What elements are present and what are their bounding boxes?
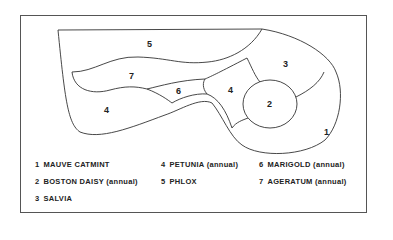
legend-num: 2 [35,177,39,186]
boundary-3-4 [247,58,260,82]
legend-item-3: 3SALVIA [35,194,72,203]
legend-num: 3 [35,194,39,203]
bed-label-7: 7 [129,71,134,81]
legend-name: SALVIA [43,194,72,203]
bed-label-2: 2 [267,99,272,109]
legend-item-5: 5PHLOX [161,177,197,186]
legend-num: 5 [161,177,165,186]
legend-item-2: 2BOSTON DAISY (annual) [35,177,138,186]
legend-num: 4 [161,160,165,169]
boundary-1-4 [232,118,248,128]
legend-name: PHLOX [169,177,196,186]
bed-label-1: 1 [324,127,329,137]
legend-item-4: 4PETUNIA (annual) [161,160,238,169]
boundary-5-7 [72,29,262,72]
legend-num: 6 [259,160,263,169]
bed-label-5: 5 [147,39,152,49]
bed-label-4-right: 4 [228,85,233,95]
bed-label-6: 6 [176,86,181,96]
legend-item-6: 6MARIGOLD (annual) [259,160,345,169]
boundary-3-1 [296,72,324,97]
boundary-7-4 [72,72,205,92]
outer-bed-outline [58,29,340,154]
legend-num: 1 [35,160,39,169]
bed-4-right [203,58,247,128]
legend-name: MARIGOLD [267,160,310,169]
legend-note: (annual) [315,177,347,186]
legend-note: (annual) [313,160,345,169]
legend-note: (annual) [106,177,138,186]
legend-item-7: 7AGERATUM (annual) [259,177,347,186]
legend-num: 7 [259,177,263,186]
bed-label-3: 3 [283,59,288,69]
plant-legend: 1MAUVE CATMINT 2BOSTON DAISY (annual) 3S… [35,160,365,210]
legend-name: PETUNIA [169,160,204,169]
bed-label-4-left: 4 [104,105,109,115]
legend-note: (annual) [207,160,239,169]
legend-name: BOSTON DAISY [43,177,103,186]
legend-name: MAUVE CATMINT [43,160,109,169]
legend-name: AGERATUM [267,177,312,186]
legend-item-1: 1MAUVE CATMINT [35,160,110,169]
